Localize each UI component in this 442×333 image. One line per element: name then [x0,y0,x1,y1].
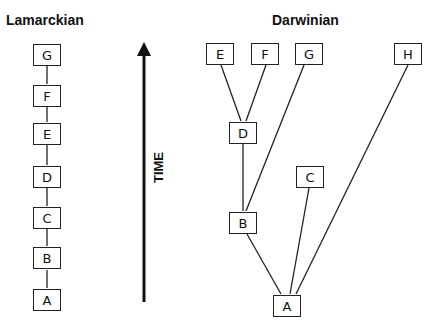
darwinian-node-d: D [229,122,257,144]
lamarckian-title: Lamarckian [6,12,84,28]
darwinian-node-b: B [229,212,257,234]
lamarckian-node-c: C [33,207,61,229]
darwinian-node-a: A [273,295,301,317]
darwinian-node-c: C [296,166,324,188]
darwinian-node-h: H [394,43,422,65]
edge-dar-c-a [290,188,309,294]
time-axis-label: TIME [151,152,166,183]
darwinian-title: Darwinian [272,12,339,28]
darwinian-node-g: G [295,43,323,65]
edge-dar-b-a [247,234,281,294]
lamarckian-node-b: B [33,247,61,269]
lamarckian-node-f: F [33,85,61,107]
evolution-diagram: Lamarckian Darwinian TIME G F E D C B A … [0,0,442,333]
darwinian-node-f: F [251,43,279,65]
edge-dar-f-d [246,65,266,121]
darwinian-node-e: E [206,43,234,65]
lamarckian-node-a: A [33,289,61,311]
lamarckian-node-g: G [33,44,61,66]
lamarckian-node-d: D [33,166,61,188]
lamarckian-node-e: E [33,123,61,145]
time-arrow-icon [137,42,151,302]
edge-dar-e-d [221,65,241,121]
